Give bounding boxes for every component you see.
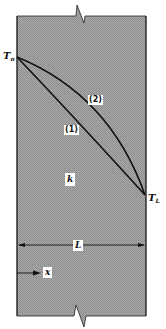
coordinate-x-label: x (43, 267, 52, 278)
curve-2-label: (2) (88, 95, 103, 105)
conductivity-label: k (65, 173, 75, 186)
t-l-subscript: L (155, 197, 159, 204)
thickness-label: L (73, 240, 83, 251)
curve-1-label: (1) (64, 125, 79, 135)
wall-body (17, 5, 146, 327)
t-o-subscript: o (10, 55, 14, 62)
temperature-label-left: To (3, 51, 14, 62)
wall-diagram (0, 0, 166, 329)
temperature-label-right: TL (148, 193, 160, 204)
